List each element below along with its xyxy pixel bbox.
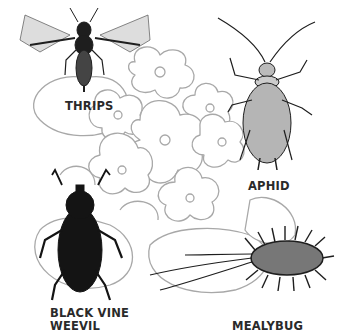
insects xyxy=(0,0,339,334)
pest-illustration: THRIPS APHID BLACK VINE WEEVIL MEALYBUG xyxy=(0,0,339,334)
mealybug-icon xyxy=(150,226,334,291)
aphid-label: APHID xyxy=(248,180,290,193)
thrips-icon xyxy=(20,8,150,92)
thrips-label: THRIPS xyxy=(65,100,114,113)
mealybug-label: MEALYBUG xyxy=(232,320,303,333)
aphid-icon xyxy=(218,18,315,170)
weevil-icon xyxy=(40,170,122,300)
weevil-label-line2: WEEVIL xyxy=(50,320,100,333)
